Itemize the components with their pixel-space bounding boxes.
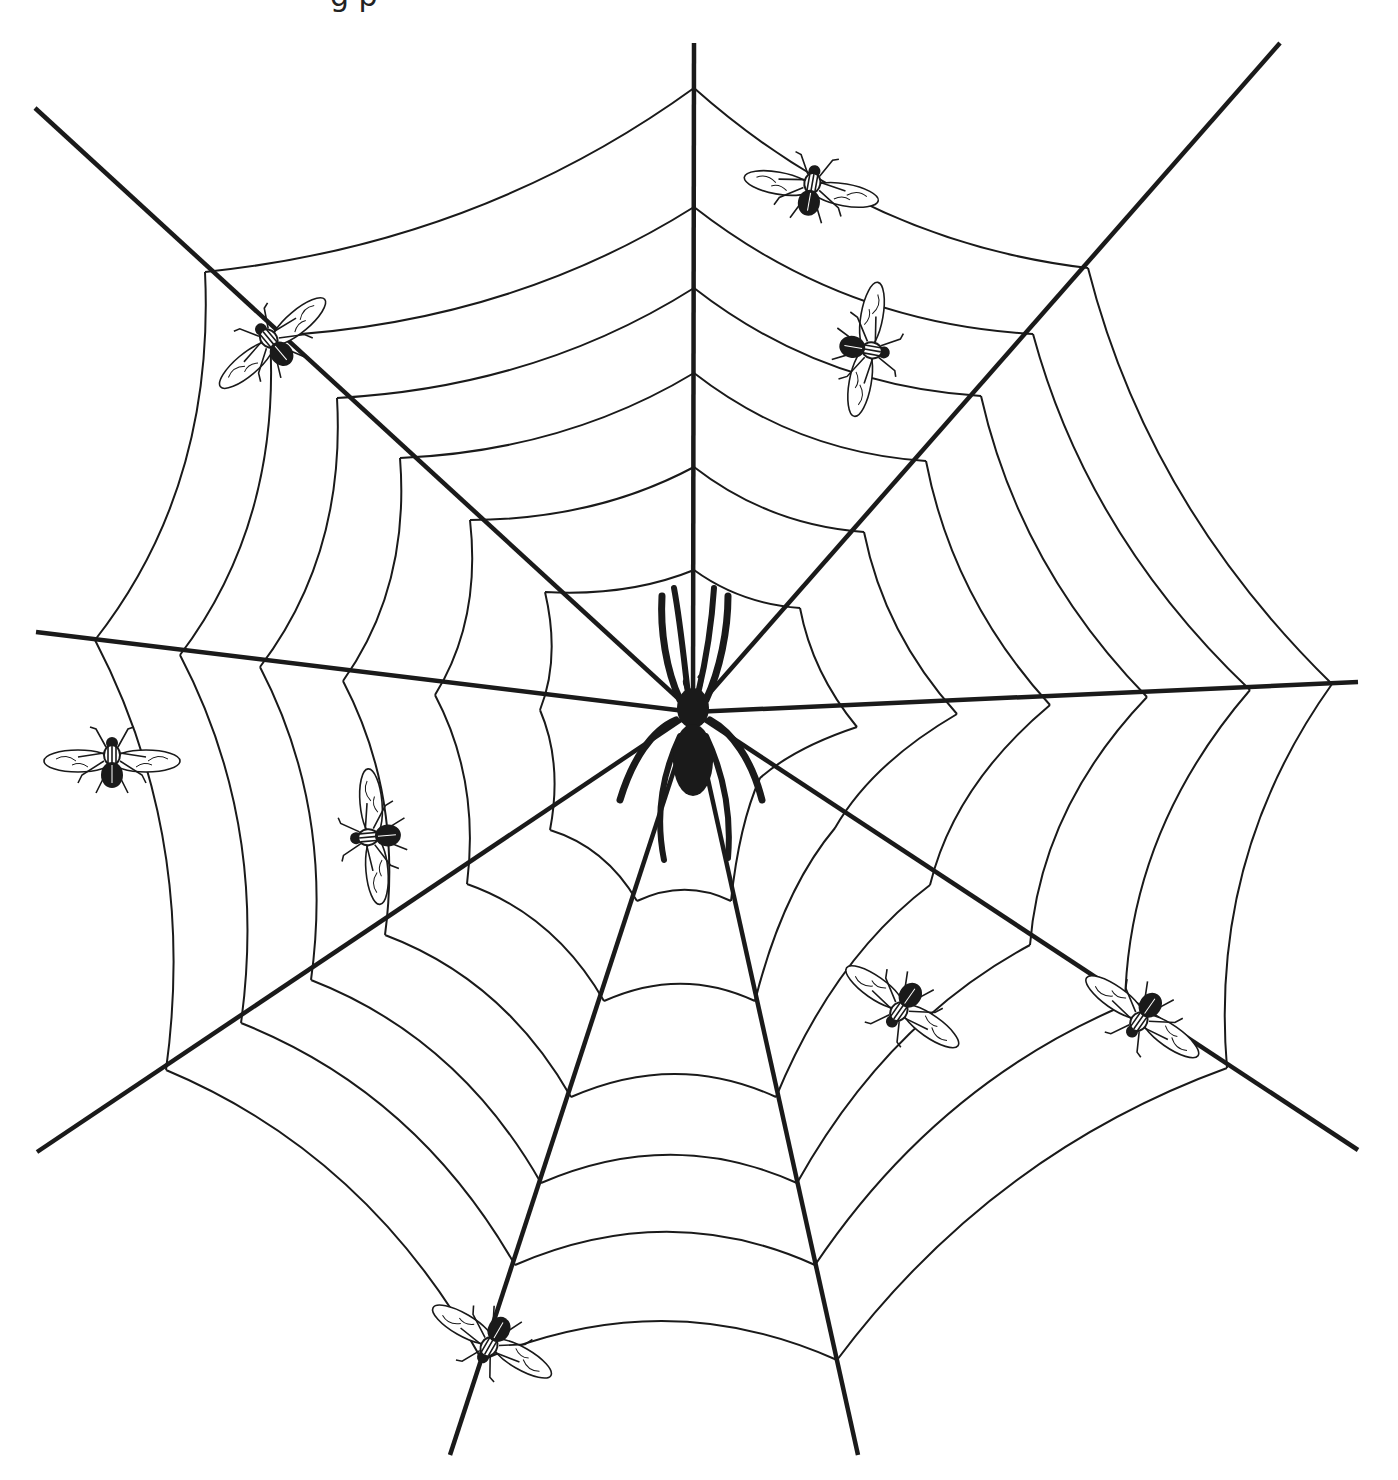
radial-left xyxy=(36,632,693,712)
fly-icon xyxy=(44,727,180,793)
spider-web-illustration xyxy=(0,0,1398,1480)
radial-upper-right xyxy=(693,43,1280,712)
web-ring-2 xyxy=(180,207,1250,1265)
radial-top xyxy=(693,43,694,712)
fly-icon xyxy=(823,277,912,422)
fly-icon xyxy=(416,1280,567,1405)
radial-upper-left xyxy=(35,108,693,712)
fly-icon xyxy=(739,144,884,233)
fly-icon xyxy=(334,766,412,907)
radial-lower-right xyxy=(693,712,1358,1150)
radial-right xyxy=(693,682,1358,712)
fly-icon xyxy=(827,942,976,1074)
fly-icon xyxy=(199,273,346,411)
radial-bottom-right xyxy=(693,712,858,1455)
